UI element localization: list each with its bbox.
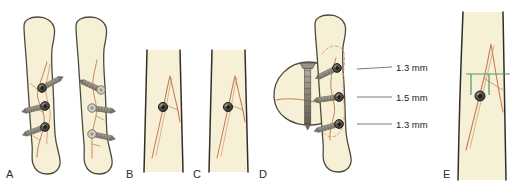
panel-a-ap-bone	[24, 17, 60, 174]
panel-c-screw	[223, 102, 232, 111]
panel-d-long-bone	[315, 15, 351, 172]
dimension-callouts: 1.3 mm 1.5 mm 1.3 mm	[357, 62, 428, 130]
panel-label-b: B	[126, 168, 133, 180]
dimension-label-1: 1.3 mm	[396, 62, 428, 73]
panel-e-screw	[475, 91, 485, 101]
surgical-technique-figure: 1.3 mm 1.5 mm 1.3 mm A	[0, 0, 527, 192]
dimension-label-2: 1.5 mm	[396, 92, 428, 103]
panel-label-d: D	[259, 168, 267, 180]
panel-b-screw	[158, 102, 167, 111]
panel-label-e: E	[443, 168, 450, 180]
dimension-label-3: 1.3 mm	[396, 119, 428, 130]
panel-a-lateral-bone	[76, 17, 112, 174]
panel-label-c: C	[193, 168, 201, 180]
leader-line-1	[357, 67, 392, 69]
panel-label-a: A	[6, 168, 14, 180]
figure-canvas: 1.3 mm 1.5 mm 1.3 mm A	[0, 0, 527, 192]
